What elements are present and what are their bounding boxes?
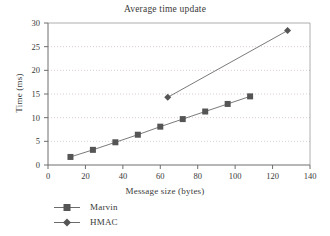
legend-item-hmac: HMAC [52, 215, 192, 230]
y-axis-title: Time (ms) [14, 38, 24, 148]
xtick-label-40: 40 [110, 171, 136, 181]
xtick-label-0: 0 [35, 171, 61, 181]
series-marvin [67, 93, 253, 160]
legend-item-marvin: Marvin [52, 200, 192, 215]
y-axis [44, 23, 48, 165]
x-axis-title: Message size (bytes) [0, 186, 330, 196]
square-marker-icon [52, 200, 82, 215]
marvin-point-36 [112, 139, 118, 145]
diamond-marker-icon [52, 215, 82, 230]
xtick-label-100: 100 [222, 171, 248, 181]
marvin-point-84 [202, 109, 208, 115]
marvin-point-60 [157, 124, 163, 130]
xtick-label-80: 80 [185, 171, 211, 181]
ytick-label-30: 30 [16, 18, 40, 28]
marvin-point-108 [247, 93, 253, 99]
chart-figure: Average time update [0, 0, 330, 236]
xtick-label-140: 140 [297, 171, 323, 181]
xtick-label-120: 120 [260, 171, 286, 181]
hmac-point-64 [164, 94, 171, 101]
chart-legend: Marvin HMAC [52, 200, 192, 230]
legend-label-marvin: Marvin [90, 200, 118, 215]
xtick-label-20: 20 [72, 171, 98, 181]
marvin-point-72 [180, 116, 186, 122]
marvin-point-96 [225, 101, 231, 107]
marvin-point-48 [135, 132, 141, 138]
gridlines [48, 47, 310, 142]
series-hmac [164, 27, 291, 101]
legend-label-hmac: HMAC [90, 215, 118, 230]
marvin-point-24 [90, 147, 96, 153]
hmac-point-128 [284, 27, 291, 34]
x-axis [48, 165, 310, 169]
xtick-label-60: 60 [147, 171, 173, 181]
ytick-label-0: 0 [16, 160, 40, 170]
marvin-point-12 [67, 154, 73, 160]
